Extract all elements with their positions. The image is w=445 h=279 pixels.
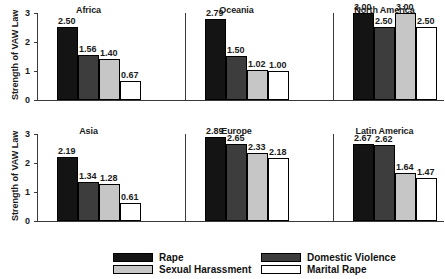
x-axis-line bbox=[148, 221, 296, 222]
y-axis-tick-label: 3 bbox=[20, 9, 30, 18]
bar-value-label: 1.02 bbox=[248, 60, 266, 69]
chart-panel: Latin America2.672.621.641.47 bbox=[296, 123, 444, 245]
chart-panel: Asia0123Strength of VAW Law2.191.341.280… bbox=[0, 123, 148, 245]
chart-panel: Europe2.892.652.332.18 bbox=[148, 123, 296, 245]
x-axis-line bbox=[37, 221, 148, 222]
y-axis-tick bbox=[34, 221, 37, 222]
bar bbox=[395, 173, 416, 221]
legend-label: Domestic Violence bbox=[307, 252, 396, 263]
bar bbox=[205, 137, 226, 221]
bar-value-label: 2.79 bbox=[206, 9, 224, 18]
bar-value-label: 1.50 bbox=[227, 46, 245, 55]
chart-panel: North America3.002.503.002.50 bbox=[296, 2, 444, 124]
bar bbox=[416, 178, 437, 221]
bar-value-label: 1.47 bbox=[417, 168, 435, 177]
panel-title: Oceania bbox=[181, 5, 292, 15]
panel-title: North America bbox=[329, 5, 440, 15]
bar-value-label: 1.56 bbox=[79, 45, 97, 54]
bar-value-label: 2.65 bbox=[227, 134, 245, 143]
bar bbox=[57, 27, 78, 100]
y-axis-tick bbox=[34, 100, 37, 101]
bar-value-label: 2.50 bbox=[375, 17, 393, 26]
y-axis-tick bbox=[34, 13, 37, 14]
bar bbox=[247, 70, 268, 100]
bar-value-label: 3.00 bbox=[396, 3, 414, 12]
y-axis-line bbox=[37, 13, 38, 101]
bar-value-label: 1.34 bbox=[79, 172, 97, 181]
y-axis-line bbox=[37, 134, 38, 222]
bar-value-label: 2.18 bbox=[269, 148, 287, 157]
y-axis-line bbox=[185, 134, 186, 222]
chart-legend: RapeDomestic ViolenceSexual HarassmentMa… bbox=[0, 245, 445, 279]
bar bbox=[99, 184, 120, 221]
y-axis-tick bbox=[34, 134, 37, 135]
bar bbox=[120, 81, 141, 100]
y-axis-tick bbox=[34, 42, 37, 43]
bar bbox=[268, 158, 289, 221]
bar-value-label: 1.28 bbox=[100, 174, 118, 183]
bar bbox=[226, 144, 247, 221]
legend-label: Marital Rape bbox=[307, 264, 366, 275]
legend-label: Sexual Harassment bbox=[159, 264, 251, 275]
bar bbox=[395, 13, 416, 100]
y-axis-tick-label: 2 bbox=[20, 38, 30, 47]
x-axis-line bbox=[148, 100, 296, 101]
y-axis-tick-label: 0 bbox=[20, 96, 30, 105]
legend-swatch bbox=[113, 253, 153, 262]
x-axis-line bbox=[37, 100, 148, 101]
y-axis-tick-label: 2 bbox=[20, 159, 30, 168]
bar bbox=[247, 153, 268, 221]
bar-value-label: 2.33 bbox=[248, 143, 266, 152]
chart-panel: Africa0123Strength of VAW Law2.501.561.4… bbox=[0, 2, 148, 124]
y-axis-tick-label: 1 bbox=[20, 188, 30, 197]
y-axis-tick-label: 0 bbox=[20, 217, 30, 226]
bar-value-label: 2.62 bbox=[375, 135, 393, 144]
legend-swatch bbox=[261, 253, 301, 262]
bar-value-label: 2.19 bbox=[58, 147, 76, 156]
y-axis-tick bbox=[34, 163, 37, 164]
bar-value-label: 1.40 bbox=[100, 49, 118, 58]
bar bbox=[268, 71, 289, 100]
bar-value-label: 0.67 bbox=[121, 71, 139, 80]
bar bbox=[353, 13, 374, 100]
x-axis-line bbox=[296, 100, 444, 101]
bar bbox=[374, 145, 395, 221]
bar-value-label: 2.50 bbox=[58, 17, 76, 26]
y-axis-label: Strength of VAW Law bbox=[10, 10, 20, 100]
legend-label: Rape bbox=[159, 252, 183, 263]
bar-value-label: 2.89 bbox=[206, 127, 224, 136]
y-axis-tick bbox=[34, 71, 37, 72]
bar-value-label: 0.61 bbox=[121, 193, 139, 202]
bar bbox=[99, 59, 120, 100]
y-axis-label: Strength of VAW Law bbox=[10, 131, 20, 221]
chart-figure: Africa0123Strength of VAW Law2.501.561.4… bbox=[0, 0, 445, 279]
legend-swatch bbox=[261, 265, 301, 274]
bar-value-label: 1.00 bbox=[269, 61, 287, 70]
bar bbox=[374, 27, 395, 100]
y-axis-line bbox=[333, 134, 334, 222]
y-axis-tick-label: 1 bbox=[20, 67, 30, 76]
bar-value-label: 2.50 bbox=[417, 17, 435, 26]
bar-value-label: 2.67 bbox=[354, 134, 372, 143]
bar bbox=[78, 182, 99, 221]
x-axis-line bbox=[296, 221, 444, 222]
y-axis-line bbox=[185, 13, 186, 101]
bar-value-label: 3.00 bbox=[354, 3, 372, 12]
y-axis-tick bbox=[34, 192, 37, 193]
bar-value-label: 1.64 bbox=[396, 163, 414, 172]
panel-title: Asia bbox=[33, 126, 144, 136]
bar bbox=[226, 56, 247, 100]
bar bbox=[205, 19, 226, 100]
bar bbox=[57, 157, 78, 221]
bar bbox=[78, 55, 99, 100]
bar bbox=[120, 203, 141, 221]
y-axis-line bbox=[333, 13, 334, 101]
bar bbox=[353, 144, 374, 221]
legend-swatch bbox=[113, 265, 153, 274]
bar bbox=[416, 27, 437, 100]
chart-panel: Oceania2.791.501.021.00 bbox=[148, 2, 296, 124]
y-axis-tick-label: 3 bbox=[20, 130, 30, 139]
panel-title: Africa bbox=[33, 5, 144, 15]
